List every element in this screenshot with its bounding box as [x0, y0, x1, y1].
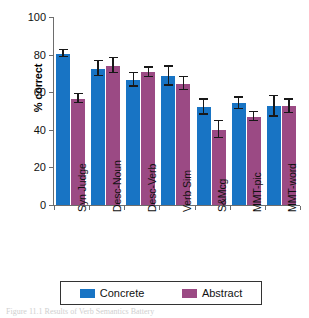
x-tick-mark	[300, 206, 301, 210]
x-tick-mark	[230, 206, 231, 210]
legend-item-abstract: Abstract	[182, 287, 242, 299]
error-bar	[273, 96, 274, 117]
error-bar-cap-top	[164, 65, 173, 66]
bar-concrete	[56, 54, 70, 205]
x-tick-mark	[89, 206, 90, 210]
plot-area	[54, 17, 300, 205]
x-tick-label: Verb Sim	[181, 170, 193, 212]
y-tick-label-text: 0	[20, 200, 46, 210]
x-tick-label: Syn Judge	[76, 163, 88, 212]
x-tick-mark	[265, 206, 266, 210]
error-bar-cap-top	[284, 98, 293, 99]
error-bar-cap-top	[129, 72, 138, 73]
x-tick-mark	[159, 206, 160, 210]
error-bar-cap-bottom	[74, 102, 83, 103]
y-tick-label: 20	[20, 162, 46, 172]
error-bar-cap-bottom	[59, 56, 68, 57]
error-bar-cap-bottom	[199, 113, 208, 114]
error-bar-cap-top	[199, 98, 208, 99]
x-tick-label: Desc-Noun	[111, 160, 123, 212]
bar-concrete	[126, 80, 140, 205]
error-bar-cap-top	[144, 66, 153, 67]
x-tick-mark	[54, 206, 55, 210]
error-bar-cap-top	[249, 111, 258, 112]
x-tick-mark	[124, 206, 125, 210]
error-bar-cap-top	[94, 60, 103, 61]
legend-label-concrete: Concrete	[100, 287, 145, 299]
error-bar-cap-bottom	[234, 108, 243, 109]
y-tick-label: 40	[20, 125, 46, 135]
bar-concrete	[232, 103, 246, 205]
y-tick-label-text: 80	[20, 50, 46, 60]
x-tick-label: Desc-Verb	[146, 164, 158, 212]
x-tick-label: S&Mcg	[216, 179, 228, 212]
error-bar-cap-top	[74, 93, 83, 94]
error-bar-cap-bottom	[144, 76, 153, 77]
error-bar-cap-bottom	[109, 72, 118, 73]
error-bar-cap-bottom	[94, 75, 103, 76]
error-bar-cap-top	[269, 95, 278, 96]
bar-concrete	[197, 107, 211, 205]
legend-swatch-abstract-icon	[182, 289, 197, 298]
x-tick-label: MMT-pic	[251, 172, 263, 212]
y-tick-label: 60	[20, 87, 46, 97]
error-bar-cap-bottom	[179, 89, 188, 90]
error-bar-cap-bottom	[164, 84, 173, 85]
chart-legend: Concrete Abstract	[60, 281, 262, 305]
bar-concrete	[91, 69, 105, 205]
figure-caption: Figure 11.1 Results of Verb Semantics Ba…	[6, 307, 306, 316]
error-bar-cap-bottom	[249, 120, 258, 121]
y-tick-label-text: 20	[20, 162, 46, 172]
error-bar-cap-bottom	[269, 115, 278, 116]
bar-group	[195, 17, 230, 205]
y-tick-label: 80	[20, 50, 46, 60]
x-tick-label: MMT-word	[286, 163, 298, 212]
error-bar-cap-bottom	[284, 112, 293, 113]
y-tick-label-text: 40	[20, 125, 46, 135]
y-tick-label: 0	[20, 200, 46, 210]
error-bar	[168, 67, 169, 86]
x-tick-mark	[195, 206, 196, 210]
error-bar-cap-top	[59, 49, 68, 50]
error-bar	[218, 121, 219, 138]
error-bar-cap-top	[234, 96, 243, 97]
error-bar-cap-bottom	[129, 85, 138, 86]
bar-concrete	[267, 106, 281, 205]
bar-chart-figure: % correct 020406080100 Syn JudgeDesc-Nou…	[0, 0, 309, 318]
legend-swatch-concrete-icon	[80, 289, 95, 298]
error-bar-cap-top	[179, 76, 188, 77]
error-bar-cap-bottom	[214, 137, 223, 138]
y-tick-label-text: 60	[20, 87, 46, 97]
y-tick-label: 100	[20, 12, 46, 22]
error-bar-cap-top	[109, 57, 118, 58]
legend-item-concrete: Concrete	[80, 287, 145, 299]
y-tick-label-text: 100	[20, 12, 46, 22]
error-bar-cap-top	[214, 120, 223, 121]
bar-concrete	[161, 76, 175, 205]
legend-label-abstract: Abstract	[202, 287, 242, 299]
